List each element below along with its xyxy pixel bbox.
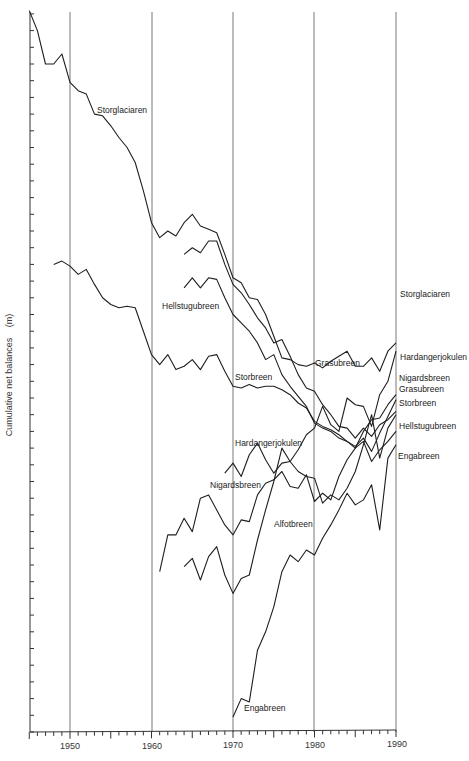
label-storbreen: Storbreen xyxy=(235,372,273,382)
right-label-storglaciaren: Storglaciaren xyxy=(400,289,450,299)
label-hardangerjokulen: Hardangerjokulen xyxy=(235,438,302,448)
right-labels: Storglaciaren Hardangerjokulen Nigardsbr… xyxy=(398,289,467,461)
right-label-grasubreen: Grasubreen xyxy=(399,384,444,394)
label-nigardsbreen: Nigardsbreen xyxy=(210,480,261,490)
x-tick-label-1980: 1980 xyxy=(305,740,325,750)
inline-labels: Storglaciaren Hellstugubreen Storbreen G… xyxy=(97,105,360,713)
x-tick-label-1990: 1990 xyxy=(387,739,407,749)
right-label-nigardsbreen: Nigardsbreen xyxy=(399,373,450,383)
right-label-hellstugubreen: Hellstugubreen xyxy=(399,421,456,431)
x-tick-label-1960: 1960 xyxy=(142,741,162,751)
series-line-storglaciaren xyxy=(29,11,396,372)
x-tick-label-1970: 1970 xyxy=(223,740,243,750)
y-axis-unit: (m) xyxy=(4,314,14,328)
label-storglaciaren: Storglaciaren xyxy=(97,105,147,115)
y-axis xyxy=(30,12,34,732)
series-line-nigardsbreen xyxy=(160,395,396,572)
gridlines xyxy=(70,12,396,732)
y-axis-label: Cumulative net balances xyxy=(4,337,14,436)
right-label-storbreen: Storbreen xyxy=(399,398,437,408)
svg-text:Cumulative net balances: Cumulative net balances (m) xyxy=(4,314,14,437)
series-line-storbreen xyxy=(54,261,396,451)
label-engabreen: Engabreen xyxy=(244,703,286,713)
right-label-engabreen: Engabreen xyxy=(398,451,440,461)
y-axis-title: Cumulative net balances (m) xyxy=(4,314,14,437)
glacier-balance-chart: 1950 1960 1970 1980 1990 Cumulative net … xyxy=(0,0,469,761)
label-alfotbreen: Alfotbreen xyxy=(274,519,313,529)
label-grasubreen: Grasubreen xyxy=(315,358,360,368)
right-label-hardangerjokulen: Hardangerjokulen xyxy=(400,352,467,362)
x-axis: 1950 1960 1970 1980 1990 xyxy=(29,730,407,751)
x-tick-label-1950: 1950 xyxy=(60,741,80,751)
label-hellstugubreen: Hellstugubreen xyxy=(162,301,219,311)
